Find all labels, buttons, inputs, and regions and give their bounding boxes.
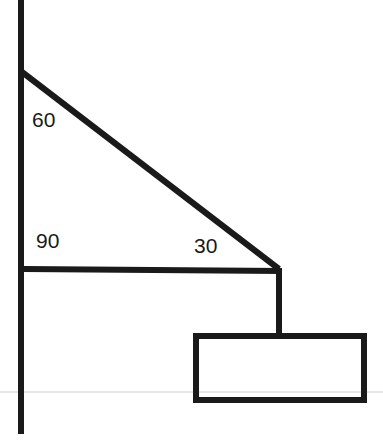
hanging-box: [196, 336, 364, 400]
angle-label-30: 30: [194, 234, 217, 257]
angle-label-60: 60: [32, 108, 55, 131]
diagonal-strut: [22, 72, 279, 269]
force-diagram: 60 90 30: [0, 0, 383, 445]
angle-label-90: 90: [36, 229, 59, 252]
horizontal-beam: [24, 269, 282, 271]
